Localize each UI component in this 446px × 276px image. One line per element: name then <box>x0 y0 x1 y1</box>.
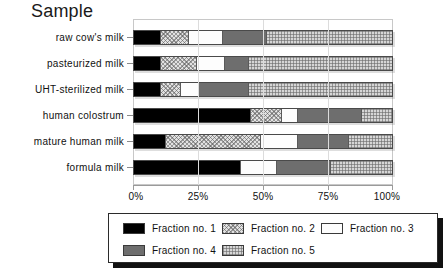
legend-swatch-fraction-1-icon <box>123 223 145 234</box>
bar-segment[interactable] <box>134 57 160 70</box>
page-title: Sample <box>31 1 93 22</box>
bar-segment[interactable] <box>260 135 296 148</box>
legend-label: Fraction no. 3 <box>350 223 414 234</box>
bar-segment[interactable] <box>134 135 165 148</box>
bar-segment[interactable] <box>224 57 247 70</box>
bar-segment[interactable] <box>160 57 196 70</box>
x-tick-label-25: 25% <box>188 191 209 202</box>
x-tick <box>392 185 393 190</box>
bar-segment[interactable] <box>361 109 392 122</box>
bar-segment[interactable] <box>134 83 160 96</box>
y-category-label: mature human milk <box>0 136 124 147</box>
legend-swatch-fraction-2-icon <box>222 223 244 234</box>
legend-item-fraction-4[interactable]: Fraction no. 4 <box>123 245 216 256</box>
legend-label: Fraction no. 4 <box>152 245 216 256</box>
x-tick <box>328 185 329 190</box>
bar-segment[interactable] <box>276 161 330 174</box>
x-tick-label-75: 75% <box>318 191 339 202</box>
gridline <box>198 20 199 185</box>
legend-swatch-fraction-4-icon <box>123 245 145 256</box>
bar-segment[interactable] <box>134 161 240 174</box>
bar-segment[interactable] <box>250 109 281 122</box>
bar-segment[interactable] <box>188 31 222 44</box>
bar-segment[interactable] <box>248 57 392 70</box>
bar-segment[interactable] <box>240 161 276 174</box>
y-category-label: formula milk <box>0 162 124 173</box>
legend-label: Fraction no. 2 <box>251 223 315 234</box>
legend-label: Fraction no. 5 <box>251 245 315 256</box>
bar-segment[interactable] <box>248 83 392 96</box>
legend-row: Fraction no. 4 Fraction no. 5 <box>109 239 437 261</box>
chart-legend: Fraction no. 1 Fraction no. 2 Fraction n… <box>108 213 438 263</box>
bar-segment[interactable] <box>348 135 392 148</box>
bar-segment[interactable] <box>134 109 250 122</box>
x-tick-label-100: 100% <box>374 191 400 202</box>
bar-segment[interactable] <box>160 31 188 44</box>
x-tick <box>198 185 199 190</box>
bar-segment[interactable] <box>165 135 260 148</box>
bar-segment[interactable] <box>222 31 266 44</box>
y-category-label: raw cow's milk <box>0 32 124 43</box>
y-category-label: UHT-sterilized milk <box>0 84 124 95</box>
bar-segment[interactable] <box>160 83 181 96</box>
bar-segment[interactable] <box>196 57 224 70</box>
bar-segment[interactable] <box>134 31 160 44</box>
y-category-label: human colostrum <box>0 110 124 121</box>
y-category-label: pasteurized milk <box>0 58 124 69</box>
bar-segment[interactable] <box>180 83 198 96</box>
bar-segment[interactable] <box>297 135 349 148</box>
legend-swatch-fraction-3-icon <box>321 223 343 234</box>
legend-row: Fraction no. 1 Fraction no. 2 Fraction n… <box>109 217 437 239</box>
legend-item-fraction-2[interactable]: Fraction no. 2 <box>222 223 315 234</box>
legend-item-fraction-5[interactable]: Fraction no. 5 <box>222 245 315 256</box>
bar-segment[interactable] <box>281 109 296 122</box>
x-tick <box>133 185 134 190</box>
x-tick-label-0: 0% <box>129 191 144 202</box>
legend-swatch-fraction-5-icon <box>222 245 244 256</box>
bar-segment[interactable] <box>330 161 392 174</box>
x-tick <box>263 185 264 190</box>
gridline <box>263 20 264 185</box>
bar-segment[interactable] <box>198 83 247 96</box>
legend-item-fraction-1[interactable]: Fraction no. 1 <box>123 223 216 234</box>
x-tick-label-50: 50% <box>253 191 274 202</box>
gridline <box>328 20 329 185</box>
legend-label: Fraction no. 1 <box>152 223 216 234</box>
legend-item-fraction-3[interactable]: Fraction no. 3 <box>321 223 414 234</box>
